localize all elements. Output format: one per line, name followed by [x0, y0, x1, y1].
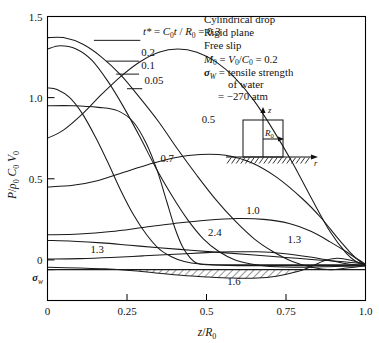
figure-background [0, 0, 379, 343]
curve-label: 0.7 [160, 152, 174, 164]
chart-figure: 00.250.50.751.000.51.01.5 t* = C0t / R0 … [0, 0, 379, 343]
x-tick-label: 1.0 [359, 305, 373, 317]
x-tick-label: 0 [45, 305, 51, 317]
pressure-profile-chart: 00.250.50.751.000.51.01.5 t* = C0t / R0 … [0, 0, 379, 343]
curve-label: 0.1 [141, 59, 155, 71]
annotation-line-2: Rigid plane [204, 26, 254, 38]
y-tick-label: 0.5 [29, 173, 43, 185]
y-tick-label: 0 [37, 254, 43, 266]
x-tick-label: 0.75 [276, 305, 296, 317]
annotation-line-6: of water [228, 78, 264, 90]
x-tick-label: 0.5 [200, 305, 214, 317]
inset-z-label: z [267, 105, 272, 115]
curve-label: 2.4 [208, 226, 222, 238]
y-title-P: P [6, 192, 18, 200]
curve-label: 1.0 [246, 204, 260, 216]
curve-label: 0.2 [141, 46, 155, 58]
sigma-sub: w [38, 277, 43, 286]
curve-label: 1.3 [288, 233, 302, 245]
annotation-line-7: = −270 atm [218, 90, 269, 102]
x-title-R-sub: 0 [212, 332, 216, 341]
annotation-line-3: Free slip [204, 39, 241, 51]
annotation-line-1: Cylindrical drop [204, 13, 275, 25]
x-tick-label: 0.25 [117, 305, 137, 317]
y-tick-label: 1.0 [29, 92, 43, 104]
curve-label: 0.05 [144, 74, 163, 86]
y-tick-label: 1.5 [29, 11, 43, 23]
curve-label: 0.5 [202, 113, 216, 125]
curve-label: 1.3 [90, 243, 104, 255]
curve-label: 1.6 [227, 275, 241, 287]
x-title-R: R [204, 326, 212, 338]
y-title-V-sub: 0 [12, 151, 21, 155]
